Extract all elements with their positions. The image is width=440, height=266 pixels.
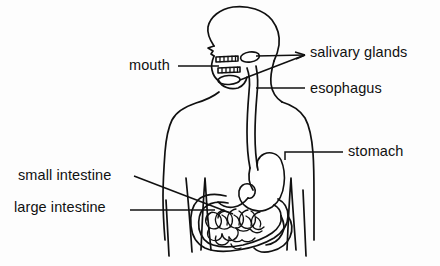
label-small-intestine: small intestine	[18, 168, 111, 183]
upper-teeth-row	[216, 56, 238, 62]
label-stomach: stomach	[348, 144, 404, 159]
face-profile-line	[208, 46, 214, 56]
label-large-intestine: large intestine	[14, 200, 106, 215]
digestive-system-diagram: mouth salivary glands esophagus stomach …	[0, 0, 440, 266]
hip-line-left-outer	[166, 200, 169, 256]
esophagus-tube-left	[247, 68, 250, 168]
torso-right-outline	[282, 102, 314, 240]
leader-line-salivary-upper	[256, 55, 305, 56]
stomach-organ	[239, 153, 285, 211]
lower-teeth-row	[218, 67, 240, 73]
hip-line-right-inner	[303, 190, 306, 256]
label-esophagus: esophagus	[310, 81, 382, 96]
small-intestine-coils	[206, 209, 264, 249]
head-profile-outline	[208, 7, 279, 61]
label-mouth: mouth	[129, 58, 170, 73]
salivary-gland-upper	[240, 51, 260, 64]
anatomy-illustration	[0, 0, 440, 266]
esophagus-tube-right	[255, 66, 258, 170]
label-salivary-glands: salivary glands	[310, 45, 407, 60]
